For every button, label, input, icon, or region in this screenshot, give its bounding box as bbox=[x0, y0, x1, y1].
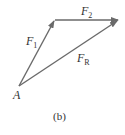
label-f1: F1 bbox=[26, 35, 37, 50]
label-point-a: A bbox=[13, 89, 20, 101]
vector-diagram: F1 F2 FR A (b) bbox=[0, 0, 125, 135]
vector-fr bbox=[19, 21, 117, 86]
figure-caption: (b) bbox=[53, 111, 66, 122]
vector-f1 bbox=[19, 21, 54, 86]
label-f1-sub: 1 bbox=[33, 41, 37, 50]
label-fr-sub: R bbox=[84, 58, 89, 67]
label-f2-sub: 2 bbox=[88, 11, 92, 20]
label-fr: FR bbox=[77, 52, 90, 67]
label-f2: F2 bbox=[81, 5, 92, 20]
